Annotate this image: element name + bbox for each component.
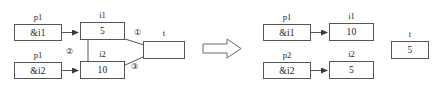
node-box-p1-after[interactable]: &i1 bbox=[263, 24, 311, 41]
node-box-t-after[interactable]: 5 bbox=[391, 41, 429, 59]
node-label-p1-before: p1 bbox=[14, 12, 62, 22]
node-box-i1-after[interactable]: 10 bbox=[329, 23, 374, 41]
node-label-p2-after: p2 bbox=[263, 50, 311, 60]
node-label-i1-after: i1 bbox=[329, 11, 374, 21]
node-box-p2-after[interactable]: &i2 bbox=[263, 62, 311, 79]
node-label-i2-after: i2 bbox=[329, 49, 374, 59]
node-box-i2-after[interactable]: 5 bbox=[329, 61, 374, 79]
step-marker-2: ② bbox=[66, 47, 73, 56]
step-marker-1: ① bbox=[134, 28, 141, 37]
node-label-i1-before: i1 bbox=[80, 10, 125, 20]
node-label-p1-after: p1 bbox=[263, 12, 311, 22]
node-label-i2-before: i2 bbox=[80, 49, 125, 59]
node-box-t-before[interactable] bbox=[143, 41, 185, 59]
node-box-i1-before[interactable]: 5 bbox=[80, 22, 125, 40]
pointer-diagram: p1 &i1 i1 5 p1 &i2 i2 10 t ① ② ③ p1 &i1 … bbox=[0, 0, 433, 93]
implies-arrow-icon bbox=[203, 39, 241, 58]
node-box-p1-before[interactable]: &i1 bbox=[14, 24, 62, 41]
node-label-t-after: t bbox=[391, 29, 429, 39]
node-label-t-before: t bbox=[143, 28, 185, 38]
node-box-i2-before[interactable]: 10 bbox=[80, 61, 125, 79]
step-marker-3: ③ bbox=[131, 62, 138, 71]
node-label-p1b-before: p1 bbox=[14, 50, 62, 60]
node-box-p1b-before[interactable]: &i2 bbox=[14, 62, 62, 79]
